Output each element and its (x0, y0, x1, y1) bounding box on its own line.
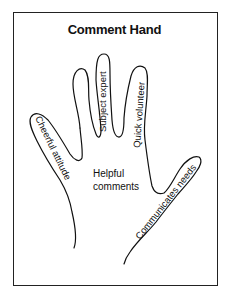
palm-label: Helpful comments (93, 167, 139, 193)
finger-ring-outline (73, 54, 119, 137)
hand-left-edge (30, 114, 82, 248)
label-cheerful-attitude: Cheerful attitude (33, 114, 73, 181)
label-subject-expert: Subject expert (97, 71, 108, 132)
palm-label-line-1: Helpful (93, 167, 139, 180)
hand-outline: Cheerful attitude Subject expert Quick v… (0, 0, 229, 294)
label-communicates-needs: Communicates needs (133, 162, 198, 241)
palm-label-line-2: comments (93, 180, 139, 193)
